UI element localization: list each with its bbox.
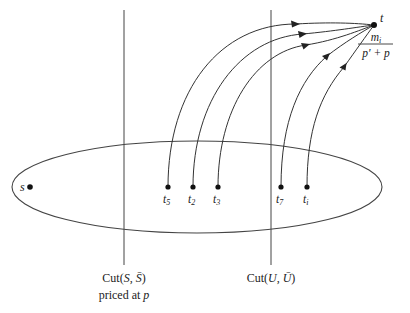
cut-s-price-label: priced at p <box>99 288 150 302</box>
capacity-numerator: mi <box>371 31 382 45</box>
arrow-icon <box>298 31 307 38</box>
arc-t3-to-t <box>218 45 306 187</box>
arc-t2-to-t <box>193 34 303 187</box>
flow-network-diagram: s t mi p′ + p t5 t2 t3 t7 ti Cut(S, S̄) … <box>0 0 410 313</box>
node-ti <box>304 184 309 189</box>
capacity-denominator: p′ + p <box>361 47 390 60</box>
label-t7: t7 <box>276 193 284 207</box>
label-t3: t3 <box>213 193 220 207</box>
label-ti: ti <box>303 193 308 207</box>
arrow-icon <box>291 21 300 28</box>
cut-u-label: Cut(U, Ū) <box>247 271 296 285</box>
arrow-icon <box>340 63 347 71</box>
node-set-ellipse <box>12 141 382 233</box>
source-label: s <box>20 180 25 194</box>
node-t2 <box>190 184 195 189</box>
sink-label: t <box>380 11 384 25</box>
source-node <box>27 184 33 190</box>
arrowheads <box>291 21 347 71</box>
arc-t5-to-t <box>168 24 296 187</box>
node-t3 <box>215 184 220 189</box>
label-t2: t2 <box>188 193 195 207</box>
arc-t7-to-t <box>281 56 327 187</box>
node-t5 <box>165 184 170 189</box>
node-t7 <box>278 184 283 189</box>
arrow-icon <box>301 43 310 50</box>
label-t5: t5 <box>163 193 170 207</box>
cut-s-label: Cut(S, S̄) <box>102 271 145 285</box>
arc-ti-to-t <box>307 67 344 187</box>
sink-node <box>371 22 377 28</box>
